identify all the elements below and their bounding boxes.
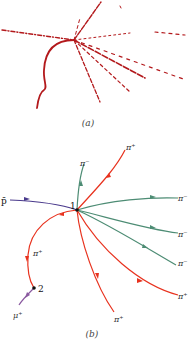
pi-plus-right-label: π⁺ bbox=[177, 292, 187, 301]
vertex-2 bbox=[32, 286, 36, 290]
vertex-2-label: 2 bbox=[38, 284, 44, 294]
pi-minus-right-3-label: π⁻ bbox=[177, 259, 187, 268]
pi-plus-bottom-label: π⁺ bbox=[113, 315, 123, 324]
caption-a: (a) bbox=[82, 118, 95, 128]
pi-plus-top-label: π⁺ bbox=[125, 143, 135, 152]
photo-tracks bbox=[2, 2, 186, 108]
caption-b: (b) bbox=[86, 329, 99, 339]
vertex-1-label: 1 bbox=[70, 201, 76, 211]
pi-minus-top-label: π⁻ bbox=[79, 159, 89, 168]
antiproton-label: p̄ bbox=[1, 196, 7, 206]
pi-plus-left-label: π⁺ bbox=[32, 249, 42, 258]
figure: (a) 1 2 bbox=[0, 0, 192, 344]
mu-plus-label: μ⁺ bbox=[13, 311, 22, 320]
vertex-1 bbox=[75, 208, 79, 212]
direction-arrows bbox=[24, 173, 156, 298]
pi-minus-right-2-label: π⁻ bbox=[177, 230, 187, 239]
pi-minus-right-1-label: π⁻ bbox=[177, 194, 187, 203]
